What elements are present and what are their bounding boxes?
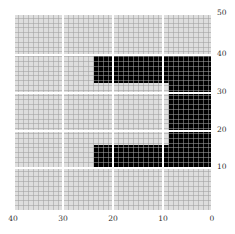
x-tick-label-20: 20: [108, 215, 118, 223]
plot-area[interactable]: [13, 13, 213, 210]
grid-occupancy-figure: 40 30 20 10 0 50 40 30 20 10: [0, 0, 235, 234]
occupied-region-bottom-bar: [94, 145, 213, 167]
x-tick-label-30: 30: [58, 215, 68, 223]
x-tick-label-0: 0: [210, 215, 215, 223]
y-tick-label-40: 40: [217, 50, 227, 58]
y-tick-label-10: 10: [217, 163, 227, 171]
y-tick-label-50: 50: [217, 9, 227, 17]
y-tick-label-20: 20: [217, 126, 227, 134]
occupancy-layer: [13, 13, 213, 210]
x-tick-label-40: 40: [8, 215, 18, 223]
x-tick-label-10: 10: [158, 215, 168, 223]
y-tick-label-30: 30: [217, 88, 227, 96]
